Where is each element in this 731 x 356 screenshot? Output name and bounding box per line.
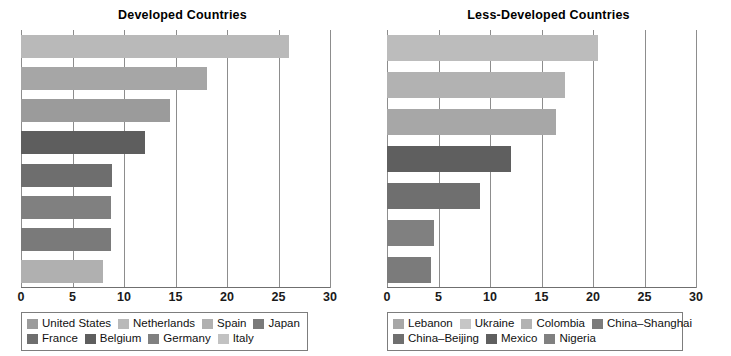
legend-swatch-icon: [202, 319, 213, 329]
bar-mexico: [387, 220, 434, 246]
x-tick-label: 20: [220, 290, 234, 304]
bar-row: [21, 260, 103, 283]
x-axis-line-developed: [21, 287, 330, 288]
x-tick-label: 25: [272, 290, 286, 304]
bar-italy: [21, 260, 103, 283]
legend-label: Belgium: [100, 333, 142, 345]
legend-item-germany[interactable]: Germany: [148, 333, 210, 345]
legend-swatch-icon: [521, 319, 532, 329]
x-tick-labels-less-developed: 051015202530: [387, 290, 696, 306]
legend-swatch-icon: [460, 319, 471, 329]
legend-label: Netherlands: [133, 318, 195, 330]
plot-area-less-developed: [387, 30, 696, 288]
x-tick-label: 10: [483, 290, 497, 304]
legend-label: Ukraine: [475, 318, 515, 330]
bar-row: [387, 183, 480, 209]
chart-panel-developed: Developed Countries 051015202530 United …: [0, 0, 365, 356]
bar-row: [21, 196, 111, 219]
x-tick-label: 15: [169, 290, 183, 304]
x-tick-labels-developed: 051015202530: [21, 290, 330, 306]
chart-title-developed: Developed Countries: [0, 8, 365, 22]
legend-label: Nigeria: [559, 333, 595, 345]
bar-row: [21, 131, 145, 154]
legend-swatch-icon: [85, 334, 96, 344]
legend-item-colombia[interactable]: Colombia: [521, 318, 585, 330]
legend-item-mexico[interactable]: Mexico: [486, 333, 537, 345]
bar-row: [387, 257, 431, 283]
legend-item-lebanon[interactable]: Lebanon: [393, 318, 453, 330]
legend-item-united-states[interactable]: United States: [27, 318, 111, 330]
plot-area-developed: [21, 30, 330, 288]
legend-swatch-icon: [218, 334, 229, 344]
legend-item-nigeria[interactable]: Nigeria: [544, 333, 595, 345]
legend-label: China–Beijing: [408, 333, 479, 345]
x-tick-label: 25: [638, 290, 652, 304]
x-tick-label: 15: [535, 290, 549, 304]
gridline: [279, 30, 280, 288]
chart-title-less-developed: Less-Developed Countries: [366, 8, 731, 22]
legend-item-ukraine[interactable]: Ukraine: [460, 318, 515, 330]
legend-item-italy[interactable]: Italy: [218, 333, 254, 345]
legend-label: Italy: [233, 333, 254, 345]
gridline: [542, 30, 543, 288]
bar-japan: [21, 131, 145, 154]
legend-label: United States: [42, 318, 111, 330]
x-axis-line-less-developed: [387, 287, 696, 288]
x-tick-label: 5: [69, 290, 76, 304]
legend-item-china-shanghai[interactable]: China–Shanghai: [592, 318, 692, 330]
bar-row: [387, 146, 511, 172]
legend-label: Colombia: [536, 318, 585, 330]
legend-label: Japan: [268, 318, 299, 330]
bar-row: [387, 220, 434, 246]
legend-item-japan[interactable]: Japan: [253, 318, 299, 330]
legend-swatch-icon: [27, 334, 38, 344]
bar-china-beijing: [387, 183, 480, 209]
bar-germany: [21, 228, 111, 251]
bar-row: [387, 109, 556, 135]
legend-item-belgium[interactable]: Belgium: [85, 333, 142, 345]
bar-ukraine: [387, 72, 565, 98]
chart-panel-less-developed: Less-Developed Countries 051015202530 Le…: [366, 0, 731, 356]
gridline: [696, 30, 697, 288]
x-tick-label: 30: [689, 290, 703, 304]
bar-united-states: [21, 35, 289, 58]
x-tick-label: 20: [586, 290, 600, 304]
legend-row: United StatesNetherlandsSpainJapan: [27, 316, 302, 331]
legend-row: China–BeijingMexicoNigeria: [393, 331, 677, 346]
legend-label: Mexico: [501, 333, 537, 345]
bar-row: [387, 72, 565, 98]
legend-swatch-icon: [27, 319, 38, 329]
legend-swatch-icon: [148, 334, 159, 344]
x-tick-label: 5: [435, 290, 442, 304]
legend-item-china-beijing[interactable]: China–Beijing: [393, 333, 479, 345]
legend-developed: United StatesNetherlandsSpainJapanFrance…: [21, 312, 308, 351]
legend-item-netherlands[interactable]: Netherlands: [118, 318, 195, 330]
gridline: [330, 30, 331, 288]
gridline: [227, 30, 228, 288]
bar-row: [21, 228, 111, 251]
legend-swatch-icon: [253, 319, 264, 329]
bar-row: [21, 67, 207, 90]
legend-item-spain[interactable]: Spain: [202, 318, 246, 330]
bar-china-shanghai: [387, 146, 511, 172]
x-tick-label: 30: [323, 290, 337, 304]
legend-swatch-icon: [393, 319, 404, 329]
legend-swatch-icon: [486, 334, 497, 344]
legend-item-france[interactable]: France: [27, 333, 78, 345]
bar-row: [21, 35, 289, 58]
x-tick-label: 0: [18, 290, 25, 304]
chart-page: Developed Countries 051015202530 United …: [0, 0, 731, 356]
legend-row: FranceBelgiumGermanyItaly: [27, 331, 302, 346]
legend-label: Lebanon: [408, 318, 453, 330]
bar-colombia: [387, 109, 556, 135]
bar-row: [21, 99, 170, 122]
legend-label: France: [42, 333, 78, 345]
bar-nigeria: [387, 257, 431, 283]
gridline: [593, 30, 594, 288]
legend-less-developed: LebanonUkraineColombiaChina–ShanghaiChin…: [387, 312, 683, 351]
gridline: [645, 30, 646, 288]
bar-lebanon: [387, 35, 598, 61]
legend-swatch-icon: [118, 319, 129, 329]
legend-row: LebanonUkraineColombiaChina–Shanghai: [393, 316, 677, 331]
legend-label: Spain: [217, 318, 246, 330]
